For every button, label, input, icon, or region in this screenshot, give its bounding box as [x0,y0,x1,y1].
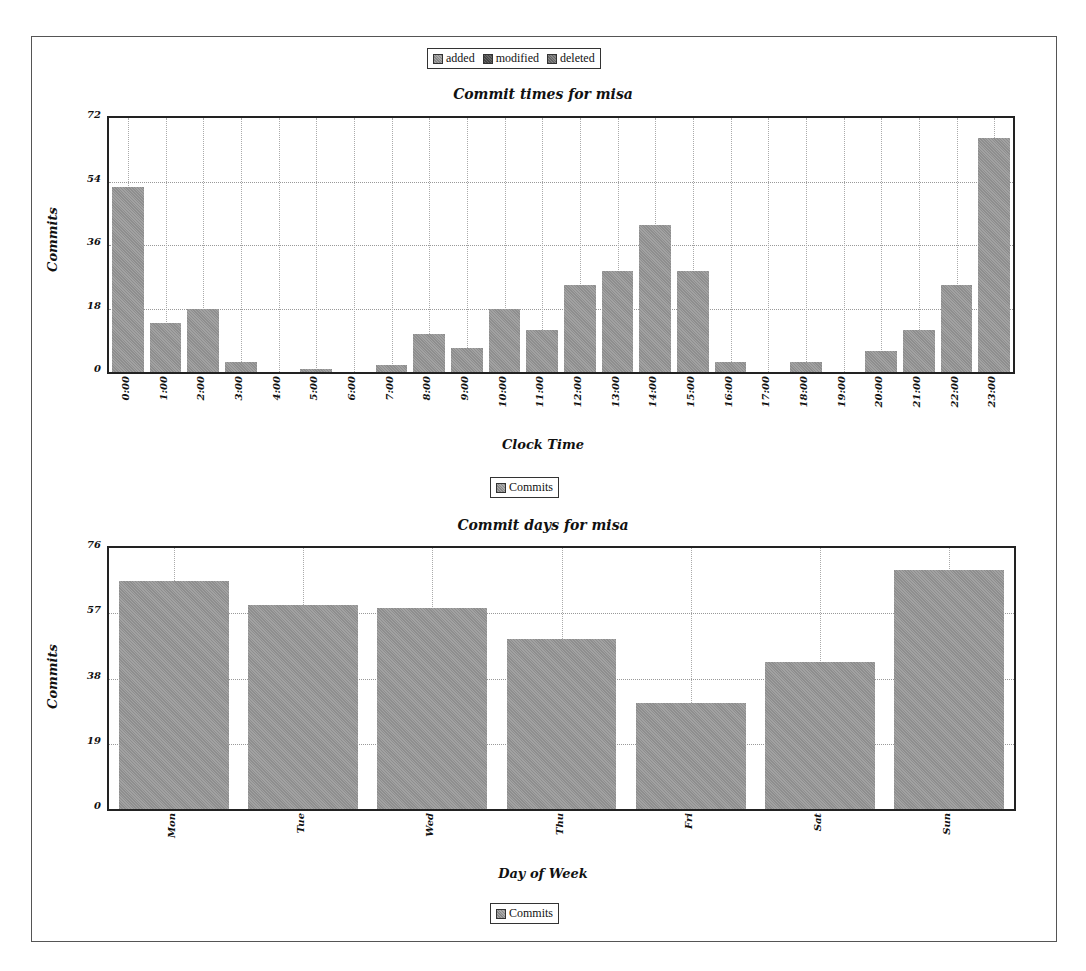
y-tick-label: 36 [71,236,101,247]
legend-swatch-icon [547,54,557,64]
plot-area-times [107,116,1015,374]
x-tick-label: Tue [295,813,306,833]
chart-title-times: Commit times for misa [0,86,1086,102]
gridline [467,118,468,372]
x-tick-label: Mon [166,813,177,838]
gridline [731,118,732,372]
bar [451,348,483,373]
x-tick-label: 7:00 [384,376,395,401]
x-axis-title-times: Clock Time [0,437,1086,452]
x-tick-label: 11:00 [534,376,545,408]
x-tick-label: 15:00 [685,376,696,408]
bar [187,309,219,372]
bar [602,271,634,373]
x-tick-label: 10:00 [497,376,508,408]
x-tick-label: 14:00 [647,376,658,408]
legend-swatch-icon [496,483,506,493]
bar [677,271,709,373]
plot-area-days [107,546,1016,811]
x-tick-label: 21:00 [911,376,922,408]
bar [790,362,822,373]
gridline [109,182,1013,183]
bar [507,639,617,809]
bar [765,662,875,809]
gridline [279,118,280,372]
y-axis-title-days: Commits [45,637,60,717]
x-tick-label: 6:00 [346,376,357,401]
bar [564,285,596,373]
gridline [109,245,1013,246]
y-tick-label: 57 [71,604,101,615]
gridline [241,118,242,372]
legend-item-deleted: deleted [547,51,595,66]
series-legend: added modified deleted [427,48,601,69]
series-legend-days: Commits [490,903,559,924]
bar [639,225,671,372]
x-tick-label: 23:00 [986,376,997,408]
x-tick-label: 1:00 [158,376,169,401]
x-tick-label: 20:00 [873,376,884,408]
legend-item-modified: modified [483,51,539,66]
x-tick-label: Thu [554,813,565,835]
gridline [806,118,807,372]
bar [119,581,229,809]
y-tick-label: 18 [71,300,101,311]
x-tick-label: 13:00 [610,376,621,408]
x-tick-label: 0:00 [120,376,131,401]
x-tick-label: 18:00 [798,376,809,408]
x-tick-label: 9:00 [459,376,470,401]
bar [376,365,408,372]
x-tick-label: 5:00 [308,376,319,401]
y-tick-label: 0 [71,800,101,811]
bar [300,369,332,373]
series-legend-times: Commits [490,477,559,498]
x-axis-title-days: Day of Week [0,866,1086,881]
y-tick-label: 76 [71,539,101,550]
bar [377,608,487,809]
legend-item-added: added [433,51,475,66]
bar [894,570,1004,809]
bar [248,605,358,809]
legend-swatch-icon [433,54,443,64]
y-tick-label: 72 [71,109,101,120]
gridline [392,118,393,372]
x-tick-label: 17:00 [760,376,771,408]
bar [112,187,144,373]
x-tick-label: 22:00 [949,376,960,408]
bar [489,309,521,372]
x-tick-label: Sun [941,813,952,835]
x-tick-label: 2:00 [195,376,206,401]
x-tick-label: Fri [683,813,694,829]
x-tick-label: 12:00 [572,376,583,408]
bar [865,351,897,372]
gridline [109,309,1013,310]
x-tick-label: Wed [424,813,435,837]
x-tick-label: 3:00 [233,376,244,401]
gridline [316,118,317,372]
y-axis-title-times: Commits [45,200,60,280]
bar [225,362,257,373]
bar [941,285,973,373]
bar [150,323,182,372]
legend-swatch-icon [483,54,493,64]
bar [526,330,558,372]
y-tick-label: 38 [71,670,101,681]
x-tick-label: 16:00 [723,376,734,408]
y-tick-label: 19 [71,735,101,746]
gridline [768,118,769,372]
chart-title-days: Commit days for misa [0,517,1086,533]
bar [715,362,747,373]
gridline [354,118,355,372]
x-tick-label: 19:00 [836,376,847,408]
y-tick-label: 54 [71,173,101,184]
bar [978,138,1010,373]
bar [413,334,445,373]
legend-swatch-icon [496,909,506,919]
gridline [844,118,845,372]
bar [903,330,935,372]
gridline [881,118,882,372]
x-tick-label: 4:00 [271,376,282,401]
bar [636,703,746,809]
x-tick-label: 8:00 [421,376,432,401]
y-tick-label: 0 [71,363,101,374]
